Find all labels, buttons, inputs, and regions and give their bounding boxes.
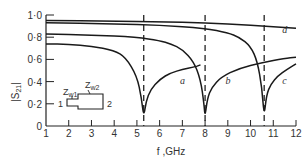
curve-a bbox=[46, 44, 201, 113]
inset-schematic: 12Zw1Zw2 bbox=[58, 80, 112, 109]
zw2-label: Zw2 bbox=[85, 80, 100, 91]
curve-labels: abcd bbox=[180, 24, 288, 86]
x-tick-label: 2 bbox=[66, 128, 72, 139]
curve-c bbox=[46, 23, 296, 111]
curve-label-d: d bbox=[282, 24, 288, 35]
y-tick-label: 0·8 bbox=[28, 32, 43, 43]
curve-label-a: a bbox=[180, 75, 185, 86]
svg-text:|S21|: |S21| bbox=[10, 82, 22, 102]
x-tick-label: 6 bbox=[157, 128, 163, 139]
y-tick-label: 0·4 bbox=[28, 77, 43, 88]
y-tick-label: 0 bbox=[36, 121, 42, 132]
curve-label-b: b bbox=[226, 75, 231, 86]
x-tick-label: 7 bbox=[180, 128, 186, 139]
x-tick-label: 8 bbox=[202, 128, 208, 139]
x-tick-label: 12 bbox=[290, 128, 302, 139]
y-tick-label: 1·0 bbox=[28, 10, 43, 21]
y-axis-title: |S21| bbox=[10, 82, 22, 102]
curve-d bbox=[46, 21, 296, 29]
axes: 12345678910111200·20·40·60·81·0 bbox=[28, 10, 302, 139]
x-axis-title: f ,GHz bbox=[157, 146, 185, 157]
curve-label-c: c bbox=[282, 75, 287, 86]
port-1-label: 1 bbox=[58, 99, 63, 109]
x-tick-label: 3 bbox=[89, 128, 95, 139]
curves bbox=[46, 21, 296, 114]
chart: 12345678910111200·20·40·60·81·0 abcd 12Z… bbox=[0, 0, 305, 162]
y-tick-label: 0·6 bbox=[28, 54, 43, 65]
x-tick-label: 4 bbox=[111, 128, 117, 139]
x-tick-label: 1 bbox=[43, 128, 49, 139]
x-tick-label: 11 bbox=[268, 128, 279, 139]
x-tick-label: 10 bbox=[245, 128, 257, 139]
x-tick-label: 5 bbox=[134, 128, 140, 139]
y-tick-label: 0·2 bbox=[28, 99, 43, 110]
x-tick-label: 9 bbox=[225, 128, 231, 139]
zw1-label: Zw1 bbox=[63, 87, 78, 98]
port-2-label: 2 bbox=[107, 99, 112, 109]
